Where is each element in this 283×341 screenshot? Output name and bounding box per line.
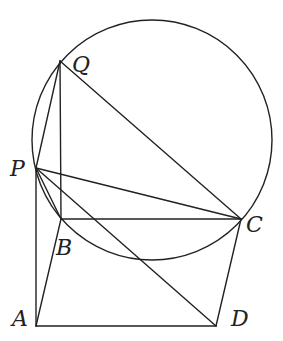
segment-pc [36, 168, 241, 219]
label-a: A [10, 306, 28, 331]
label-q: Q [72, 52, 90, 77]
label-b: B [55, 235, 72, 260]
segments [36, 61, 241, 326]
label-c: C [246, 212, 263, 237]
segment-pb [36, 168, 61, 219]
label-p: P [9, 156, 26, 181]
label-d: D [230, 306, 249, 331]
geometry-diagram: Q P B C A D [0, 0, 283, 341]
segment-qb [60, 61, 61, 219]
circle-through-qpbc [32, 20, 272, 260]
segment-pq [36, 61, 60, 168]
segment-qc [60, 61, 241, 219]
diagram-svg: Q P B C A D [0, 0, 283, 341]
